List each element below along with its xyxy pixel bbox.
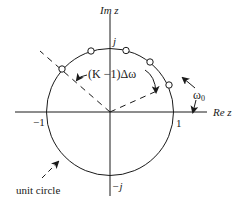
tick-label-pos-one: 1 bbox=[176, 117, 182, 129]
radial-line-first bbox=[110, 90, 159, 112]
tick-label-neg-j: −j bbox=[112, 180, 122, 192]
radial-line-last bbox=[40, 51, 110, 112]
angle-span-arrow-left bbox=[77, 75, 87, 80]
tick-label-neg-one: −1 bbox=[33, 116, 45, 128]
y-axis-label: Im z bbox=[99, 4, 119, 16]
sample-point bbox=[123, 47, 129, 53]
omega0-arrow-up bbox=[183, 78, 195, 88]
tick-label-pos-j: j bbox=[111, 35, 116, 47]
z-plane-diagram: Im z Re z j −j −1 1 (K −1)Δω ω0 unit cir… bbox=[0, 0, 245, 207]
unit-circle-label: unit circle bbox=[16, 184, 60, 196]
unit-circle-pointer-arrow bbox=[42, 162, 58, 178]
start-angle-label: ω0 bbox=[193, 88, 205, 103]
angle-span-label: (K −1)Δω bbox=[88, 67, 136, 81]
x-axis-label: Re z bbox=[212, 106, 232, 118]
start-angle-omega: ω bbox=[193, 88, 201, 102]
sample-point bbox=[147, 59, 153, 65]
sample-point bbox=[59, 66, 65, 72]
sample-point bbox=[166, 82, 172, 88]
angle-span-arrow-right bbox=[145, 70, 156, 92]
start-angle-subscript: 0 bbox=[201, 94, 205, 103]
sample-point bbox=[88, 48, 94, 54]
